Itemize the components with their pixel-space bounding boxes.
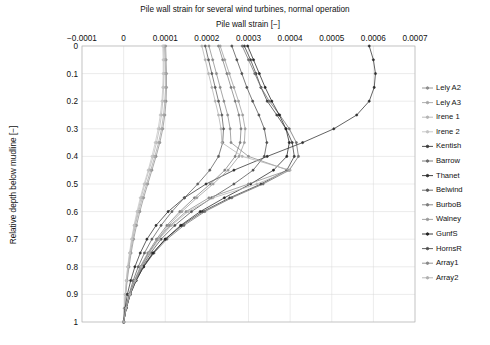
data-point: [139, 252, 141, 254]
data-point: [238, 155, 240, 157]
data-point: [368, 45, 370, 47]
data-point: [155, 224, 157, 226]
data-point: [123, 321, 125, 323]
data-point: [221, 114, 223, 116]
legend-marker: [426, 116, 428, 118]
legend-label: Walney: [436, 214, 461, 223]
data-point: [234, 155, 236, 157]
data-point: [193, 197, 195, 199]
data-point: [227, 169, 229, 171]
data-point: [263, 155, 265, 157]
data-point: [217, 114, 219, 116]
data-point: [161, 100, 163, 102]
legend-marker: [426, 277, 428, 279]
data-point: [171, 211, 173, 213]
y-tick-label: 1: [73, 318, 78, 327]
data-point: [158, 238, 160, 240]
data-point: [125, 307, 127, 309]
data-point: [291, 142, 293, 144]
data-point: [128, 252, 130, 254]
data-point: [160, 224, 162, 226]
data-point: [134, 280, 136, 282]
data-point: [286, 155, 288, 157]
legend-marker: [426, 233, 428, 235]
legend-label: Kentish: [436, 141, 461, 150]
data-point: [180, 224, 182, 226]
data-point: [170, 224, 172, 226]
data-point: [217, 155, 219, 157]
data-point: [219, 86, 221, 88]
legend-label: Lely A3: [436, 98, 461, 107]
data-point: [208, 197, 210, 199]
legend-label: HornsR: [436, 244, 462, 253]
data-point: [226, 73, 228, 75]
legend-marker: [426, 262, 428, 264]
data-point: [139, 197, 141, 199]
y-tick-label: 0.3: [67, 125, 79, 134]
data-point: [211, 86, 213, 88]
legend-marker: [426, 174, 428, 176]
y-tick-label: 0.9: [67, 290, 79, 299]
legend-label: Belwind: [436, 185, 463, 194]
data-point: [219, 45, 221, 47]
legend-label: Thanet: [436, 171, 461, 180]
y-tick-label: 0.6: [67, 208, 79, 217]
data-point: [157, 128, 159, 130]
data-point: [241, 73, 243, 75]
data-point: [148, 252, 150, 254]
legend-marker: [426, 189, 428, 191]
data-point: [258, 73, 260, 75]
data-point: [260, 86, 262, 88]
data-point: [238, 114, 240, 116]
x-tick-label: 0.0004: [278, 34, 303, 43]
data-point: [147, 169, 149, 171]
data-point: [140, 266, 142, 268]
data-point: [151, 155, 153, 157]
data-point: [258, 114, 260, 116]
y-tick-label: 0.7: [67, 235, 79, 244]
x-tick-label: 0.0006: [361, 34, 386, 43]
legend-marker: [426, 204, 428, 206]
data-point: [252, 169, 254, 171]
data-point: [252, 59, 254, 61]
data-point: [254, 73, 256, 75]
y-axis-label: Relative depth below mudline [−]: [9, 126, 18, 245]
x-tick-label: 0.0003: [236, 34, 261, 43]
data-point: [154, 142, 156, 144]
y-tick-label: 0.4: [67, 152, 79, 161]
data-point: [212, 183, 214, 185]
data-point: [236, 59, 238, 61]
data-point: [151, 238, 153, 240]
data-point: [372, 59, 374, 61]
data-point: [263, 128, 265, 130]
data-point: [199, 211, 201, 213]
legend-marker: [426, 160, 428, 162]
data-point: [231, 45, 233, 47]
data-point: [227, 114, 229, 116]
data-point: [162, 45, 164, 47]
data-point: [174, 224, 176, 226]
data-point: [129, 293, 131, 295]
data-point: [230, 142, 232, 144]
data-point: [125, 280, 127, 282]
data-point: [233, 86, 235, 88]
legend-marker: [426, 131, 428, 133]
legend-marker: [426, 145, 428, 147]
legend-label: Array1: [436, 258, 458, 267]
x-tick-label: 0.0005: [319, 34, 344, 43]
legend-label: GunfS: [436, 229, 458, 238]
data-point: [221, 142, 223, 144]
legend-marker: [426, 247, 428, 249]
chart-figure: Pile wall strain for several wind turbin…: [0, 0, 490, 345]
data-point: [242, 114, 244, 116]
data-point: [262, 183, 264, 185]
x-axis-label: Pile wall strain [−]: [216, 20, 280, 29]
data-point: [264, 86, 266, 88]
data-point: [130, 280, 132, 282]
data-point: [143, 252, 145, 254]
legend-label: Irene 1: [436, 112, 460, 121]
data-point: [183, 224, 185, 226]
data-point: [288, 142, 290, 144]
data-point: [124, 293, 126, 295]
x-tick-label: 0.0007: [402, 34, 427, 43]
